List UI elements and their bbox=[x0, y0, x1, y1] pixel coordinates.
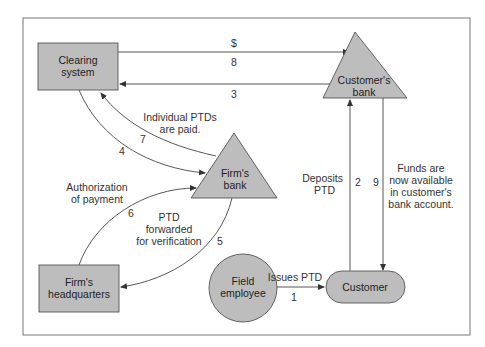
customer-label: Customer bbox=[342, 281, 388, 293]
customers-bank-label-2: bank bbox=[353, 86, 377, 98]
flow-8-step: 8 bbox=[231, 56, 237, 68]
field-employee-label-2: employee bbox=[220, 287, 266, 299]
flow-9-step: 9 bbox=[373, 176, 379, 188]
flow-6-label-1: Authorization bbox=[66, 181, 127, 193]
flow-6-step: 6 bbox=[128, 207, 134, 219]
firms-bank-label-1: Firm's bbox=[221, 167, 249, 179]
field-employee-label-1: Field bbox=[232, 275, 255, 287]
firms-bank-label-2: bank bbox=[224, 179, 248, 191]
flow-5-step: 5 bbox=[217, 235, 223, 247]
flow-1-step: 1 bbox=[291, 291, 297, 303]
flow-7-label-1: Individual PTDs bbox=[143, 111, 217, 123]
flow-7-label-2: are paid. bbox=[160, 123, 201, 135]
node-field-employee: Field employee bbox=[209, 254, 277, 322]
flow-5-label-2: forwarded bbox=[146, 223, 193, 235]
flow-2-label-2: PTD bbox=[314, 184, 335, 196]
node-customer: Customer bbox=[326, 271, 405, 303]
customers-bank-label-1: Customer's bbox=[338, 74, 391, 86]
flow-5-label-1: PTD bbox=[159, 211, 180, 223]
payment-flow-diagram: Clearing system Customer's bank Firm's b… bbox=[0, 0, 485, 347]
flow-9-label-4: bank account. bbox=[388, 198, 453, 210]
firms-hq-label-1: Firm's bbox=[65, 276, 93, 288]
flow-6-label-2: of payment bbox=[71, 193, 123, 205]
node-customers-bank: Customer's bank bbox=[323, 32, 407, 98]
flow-2-step: 2 bbox=[355, 176, 361, 188]
flow-2-label-1: Deposits bbox=[302, 172, 343, 184]
node-firms-bank: Firm's bank bbox=[191, 133, 277, 198]
flow-5-label-3: for verification bbox=[136, 235, 202, 247]
flow-8-label: $ bbox=[231, 37, 237, 49]
node-clearing-system: Clearing system bbox=[38, 43, 118, 90]
firms-hq-label-2: headquarters bbox=[48, 288, 110, 300]
clearing-system-label-1: Clearing bbox=[58, 54, 97, 66]
flow-3-step: 3 bbox=[231, 88, 237, 100]
clearing-system-label-2: system bbox=[61, 66, 95, 78]
node-firms-headquarters: Firm's headquarters bbox=[39, 265, 119, 312]
flow-9-label-2: now available bbox=[389, 174, 453, 186]
flow-9-label-1: Funds are bbox=[397, 162, 444, 174]
flow-9-label-3: in customer's bbox=[390, 186, 452, 198]
flow-4-step: 4 bbox=[119, 145, 125, 157]
flow-7-step: 7 bbox=[140, 133, 146, 145]
flow-1-label: Issues PTD bbox=[268, 271, 323, 283]
